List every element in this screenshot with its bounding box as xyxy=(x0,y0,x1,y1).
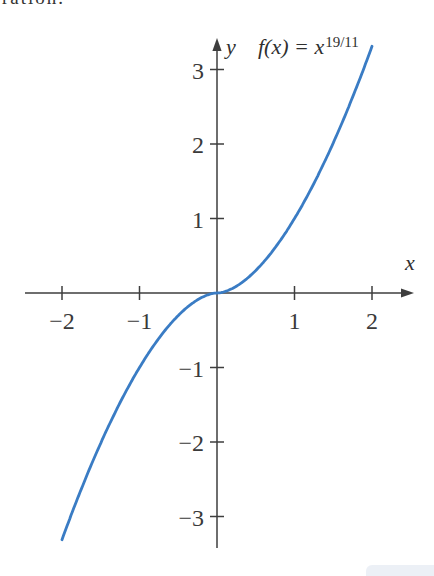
y-tick-label: 2 xyxy=(192,132,204,158)
y-tick-label: 1 xyxy=(192,207,204,233)
x-tick-label: 1 xyxy=(289,308,301,334)
function-label-exponent: 19/11 xyxy=(325,34,359,50)
y-tick-label: 3 xyxy=(192,58,204,84)
y-axis-arrowhead xyxy=(212,38,221,51)
x-tick-label: −2 xyxy=(49,308,75,334)
plot-canvas: −2−112321−1−2−3 xyxy=(0,0,434,576)
x-axis-label: x xyxy=(405,250,415,276)
function-label: f(x) = x19/11 xyxy=(258,34,359,60)
y-tick-label: −1 xyxy=(178,356,204,382)
page-artifact xyxy=(366,565,434,576)
function-label-base: f(x) = x xyxy=(258,34,324,59)
y-tick-label: −2 xyxy=(178,430,204,456)
x-tick-label: 2 xyxy=(366,308,378,334)
function-plot-figure: ration. −2−112321−1−2−3 y x f(x) = x19/1… xyxy=(0,0,434,576)
x-axis-arrowhead xyxy=(401,288,414,297)
y-axis-label: y xyxy=(226,34,236,60)
x-tick-label: −1 xyxy=(127,308,153,334)
y-tick-label: −3 xyxy=(178,505,204,531)
